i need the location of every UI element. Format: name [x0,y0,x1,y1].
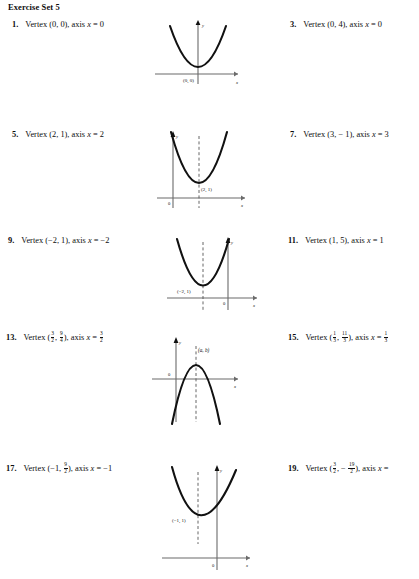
exercise-item-9: 9.Vertex (−2, 1), axis x = −2 [8,236,109,245]
exercise-prefix: Vertex (1, 5), axis [305,236,367,245]
vertex-separator: , [337,333,341,342]
y-axis-arrow [174,337,179,343]
exercise-prefix: Vertex (3, − 1), axis [303,130,372,139]
axis-equation: = −1 [94,464,112,473]
exercise-prefix: Vertex ( [305,464,332,473]
graph-exercise-9: (−2, 1) 0 x y [165,228,270,320]
origin-label: 0 [168,372,171,377]
exercise-text: Vertex (3, − 1), axis x = 3 [303,130,389,139]
axis-equation: = −2 [92,236,110,245]
x-axis-arrow [253,296,257,301]
parabola-curve [177,239,229,286]
exercise-text: Vertex (0, 4), axis x = 0 [303,20,382,29]
exercise-number: 17. [6,464,16,473]
exercise-text: Vertex (1, 5), axis x = 1 [305,236,384,245]
exercise-item-11: 11.Vertex (1, 5), axis x = 1 [288,236,384,245]
graph-exercise-5: (2, 1) 0 x y [155,122,255,212]
exercise-prefix: Vertex (−2, 1), axis [21,236,88,245]
y-axis-arrow [196,20,201,25]
axis-label: ), axis [64,333,87,342]
exercise-text: Vertex (32, − 192), axis x = [305,462,388,474]
axis-equation: = [375,333,384,342]
vertex-label: (−2, 1) [177,289,191,295]
axis-equation: = 0 [369,20,382,29]
exercise-number: 9. [8,236,14,245]
graph-exercise-1: (0, 0) x y [150,12,250,92]
exercise-item-17: 17.Vertex (−1, 92), axis x = −1 [6,462,112,474]
x-axis-label: x [252,303,255,308]
axis-label: ), axis [355,464,378,473]
exercise-item-3: 3.Vertex (0, 4), axis x = 0 [290,20,382,29]
vertex-y-fraction: 192 [348,462,354,474]
vertex-label: (−1, 1) [172,518,186,524]
axis-fraction: 13 [384,331,388,343]
exercise-prefix: Vertex (0, 4), axis [303,20,365,29]
x-axis-arrow [234,377,238,382]
origin-label: 0 [223,301,226,306]
graph-exercise-17: (−1, 1) 0 x y [160,440,265,575]
x-axis-label: x [235,80,238,85]
axis-equation: = [382,464,389,473]
exercise-text: Vertex (0, 0), axis x = 0 [25,20,104,29]
exercise-item-15: 15.Vertex (13, 113), axis x = 13 [288,331,388,343]
y-axis-label: y [230,240,234,245]
x-axis-arrow [241,196,245,201]
exercise-number: 5. [12,130,18,139]
exercise-prefix: Vertex ( [305,333,332,342]
exercise-number: 3. [290,20,296,29]
exercise-number: 11. [288,236,298,245]
axis-equation: = 1 [371,236,384,245]
y-axis-label: y [175,134,179,139]
exercise-number: 1. [12,20,18,29]
exercise-text: Vertex (13, 113), axis x = 13 [305,331,388,343]
axis-equation: = [90,333,99,342]
origin-label: 0 [212,563,215,568]
vertex-label: (2, 1) [201,187,212,193]
vertex-label: (a, b) [198,347,210,354]
y-axis-arrow [215,465,220,471]
vertex-label: (0, 0) [183,78,194,84]
exercise-text: Vertex (2, 1), axis x = 2 [25,130,104,139]
exercise-prefix: Vertex (−1, [23,464,63,473]
exercise-item-5: 5.Vertex (2, 1), axis x = 2 [12,130,104,139]
vertex-separator: , [55,333,59,342]
exercise-item-1: 1.Vertex (0, 0), axis x = 0 [12,20,104,29]
vertex-separator: , − [337,464,348,473]
graph-exercise-13: (a, b) 0 x y [150,332,255,427]
exercise-prefix: Vertex (0, 0), axis [25,20,87,29]
axis-equation: = 0 [91,20,104,29]
exercise-text: Vertex (−1, 92), axis x = −1 [23,462,112,474]
exercise-number: 15. [288,333,298,342]
vertex-x-fraction: 13 [333,331,337,343]
y-axis-label: y [219,468,223,473]
y-axis-label: y [178,340,182,345]
vertex-x-fraction: 32 [333,462,337,474]
axis-label: ), axis [348,333,371,342]
x-axis-arrow [246,556,250,561]
vertex-y-fraction: 92 [64,462,68,474]
x-axis-label: x [240,203,243,208]
axis-equation: = 2 [91,130,104,139]
exercise-item-7: 7.Vertex (3, − 1), axis x = 3 [290,130,389,139]
exercise-prefix: Vertex (2, 1), axis [25,130,87,139]
axis-label: ), axis [68,464,91,473]
exercise-item-19: 19.Vertex (32, − 192), axis x = [288,462,388,474]
exercise-page: Exercise Set 5 1.Vertex (0, 0), axis x =… [0,0,419,579]
vertex-y-fraction: 94 [60,331,64,343]
exercise-number: 7. [290,130,296,139]
exercise-number: 13. [6,333,16,342]
origin-label: 0 [168,201,171,206]
page-title: Exercise Set 5 [8,2,60,12]
exercise-text: Vertex (−2, 1), axis x = −2 [21,236,109,245]
x-axis-arrow [234,72,238,77]
vertex-y-fraction: 113 [342,331,348,343]
exercise-item-13: 13.Vertex (32, 94), axis x = 32 [6,331,104,343]
axis-equation: = 3 [376,130,389,139]
x-axis-label: x [233,384,236,389]
y-axis-label: y [201,23,205,28]
axis-fraction: 32 [100,331,104,343]
x-axis-label: x [245,563,248,568]
parabola-curve [172,467,236,515]
vertex-x-fraction: 32 [51,331,55,343]
exercise-prefix: Vertex ( [23,333,50,342]
